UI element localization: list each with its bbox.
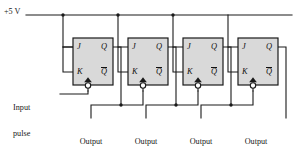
clock-bubble-icon-1	[85, 83, 90, 88]
output-label-3: Output # 3	[178, 121, 224, 149]
input-pulse-line-2: pulse	[13, 130, 30, 139]
output-label-1: Output # 1	[68, 121, 114, 149]
q-to-clock-2	[121, 91, 143, 105]
q-to-output-3	[201, 105, 231, 118]
port-label-q-2: Q	[156, 42, 162, 51]
q-to-output-1	[91, 105, 121, 118]
q-out-wire-1	[113, 47, 121, 105]
jk-bracket-3	[173, 47, 183, 72]
junction-dot-supply-3	[171, 13, 174, 16]
port-label-qbar-2: Q	[156, 67, 162, 76]
q-to-clock-4	[231, 91, 253, 105]
port-label-k-4: K	[242, 67, 248, 76]
clock-bubble-icon-3	[195, 83, 200, 88]
output-label-2: Output # 2	[123, 121, 169, 149]
port-label-j-3: J	[187, 42, 191, 51]
port-label-k-1: K	[77, 67, 83, 76]
clock-bubble-icon-2	[140, 83, 145, 88]
port-label-q-3: Q	[211, 42, 217, 51]
port-label-j-4: J	[242, 42, 246, 51]
port-label-qbar-1: Q	[101, 67, 107, 76]
output-label-4: Output # 4	[233, 121, 279, 149]
q-to-output-2	[146, 105, 176, 118]
port-label-q-1: Q	[101, 42, 107, 51]
q-to-clock-3	[176, 91, 198, 105]
jk-bracket-1	[63, 47, 73, 72]
q-out-wire-4	[278, 47, 286, 118]
port-label-k-3: K	[187, 67, 193, 76]
port-label-qbar-3: Q	[211, 67, 217, 76]
q-out-wire-2	[168, 47, 176, 105]
q-out-wire-3	[223, 47, 231, 105]
junction-dot-supply-2	[116, 13, 119, 16]
output-label-3-line-1: Output	[178, 138, 224, 147]
circuit-diagram-figure: +5 V Input pulse train J K Q Q J K Q Q J…	[0, 0, 301, 149]
junction-dot-q1	[119, 103, 122, 106]
input-pulse-wire	[60, 91, 88, 94]
port-label-j-2: J	[132, 42, 136, 51]
input-pulse-line-1: Input	[13, 104, 30, 113]
port-label-j-1: J	[77, 42, 81, 51]
output-label-1-line-1: Output	[68, 138, 114, 147]
junction-dot-supply-1	[61, 13, 64, 16]
clock-bubble-icon-4	[250, 83, 255, 88]
input-pulse-train-label: Input pulse train	[13, 87, 30, 149]
junction-dot-q3	[229, 103, 232, 106]
output-label-2-line-1: Output	[123, 138, 169, 147]
supply-voltage-label: +5 V	[4, 8, 21, 17]
jk-bracket-2	[118, 47, 128, 72]
port-label-qbar-4: Q	[266, 67, 272, 76]
output-label-4-line-1: Output	[233, 138, 279, 147]
junction-dot-q2	[174, 103, 177, 106]
port-label-q-4: Q	[266, 42, 272, 51]
port-label-k-2: K	[132, 67, 138, 76]
jk-bracket-4	[228, 47, 238, 72]
